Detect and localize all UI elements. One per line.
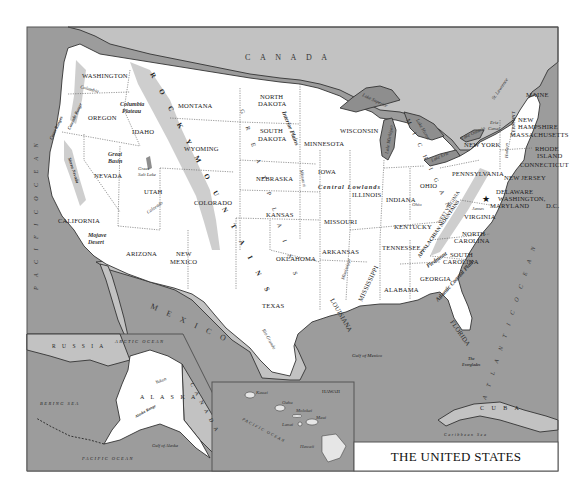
- state-rhode-island-2: ISLAND: [537, 152, 562, 159]
- state-rhode-island-1: RHODE: [535, 145, 559, 152]
- state-tennessee: TENNESSEE: [382, 244, 421, 251]
- state-ohio: OHIO: [420, 182, 437, 189]
- label-mojave-desert-2: Desert: [87, 239, 104, 245]
- label-oahu: Oahu: [282, 400, 293, 405]
- label-maui: Maui: [315, 415, 327, 420]
- state-maine: MAINE: [526, 91, 549, 98]
- label-columbia-plateau-1: Columbia: [120, 101, 144, 107]
- label-everglades-1: The: [468, 356, 475, 361]
- label-ohio-river: Ohio: [412, 202, 422, 207]
- state-north-carolina-2: CAROLINA: [454, 237, 490, 244]
- state-new-york: NEW YORK: [464, 141, 501, 148]
- state-kentucky: KENTUCKY: [394, 223, 432, 230]
- label-central-lowlands: Central Lowlands: [318, 183, 381, 190]
- label-gulf-of-mexico: Gulf of Mexico: [352, 353, 382, 358]
- state-new-jersey: NEW JERSEY: [504, 174, 546, 181]
- title-box: THE UNITED STATES: [354, 442, 558, 471]
- state-new-hampshire-2: HAMPSHIRE: [518, 123, 558, 130]
- label-mojave-desert-1: Mojave: [87, 232, 107, 238]
- state-massachusetts: MASSACHUSETTS: [510, 131, 569, 138]
- label-hawaii-island: Hawaii: [299, 444, 315, 449]
- state-alabama: ALABAMA: [384, 286, 419, 293]
- state-south-dakota-1: SOUTH: [260, 127, 283, 134]
- state-connecticut: CONNECTICUT: [520, 161, 569, 168]
- state-utah: UTAH: [144, 188, 163, 195]
- us-map: THE UNITED STATES C A N A D A M E X I C …: [0, 0, 586, 492]
- state-illinois: ILLINOIS: [352, 191, 382, 198]
- state-arkansas: ARKANSAS: [322, 248, 359, 255]
- state-hawaii: HAWAII: [322, 389, 340, 394]
- state-new-mexico-1: NEW: [176, 250, 192, 257]
- state-california: CALIFORNIA: [58, 217, 100, 224]
- state-delaware: DELAWARE: [496, 188, 533, 195]
- state-pennsylvania: PENNSYLVANIA: [452, 170, 504, 177]
- label-james-river: James: [472, 206, 484, 211]
- label-great-basin-2: Basin: [107, 158, 123, 164]
- label-molokai: Molokai: [295, 408, 313, 413]
- state-maryland: MARYLAND: [490, 202, 529, 209]
- state-georgia: GEORGIA: [420, 275, 451, 282]
- label-erie-canal-1: Erie: [489, 120, 499, 125]
- label-pacific-ocean-alaska: PACIFIC OCEAN: [81, 456, 134, 461]
- state-washington-dc-1: WASHINGTON,: [498, 195, 546, 202]
- label-columbia-plateau-2: Plateau: [122, 108, 142, 114]
- label-bering-sea: BERING SEA: [40, 401, 80, 406]
- state-washington: WASHINGTON: [82, 72, 128, 79]
- state-south-dakota-2: DAKOTA: [258, 135, 287, 142]
- state-iowa: IOWA: [318, 168, 336, 175]
- label-cuba: C U B A: [480, 405, 522, 411]
- label-arctic-ocean: ARCTIC OCEAN: [114, 339, 164, 344]
- label-great-salt-lake-1: Great: [138, 166, 150, 171]
- label-everglades-2: Everglades: [461, 362, 481, 367]
- state-washington-dc-2: D.C.: [546, 202, 559, 209]
- state-minnesota: MINNESOTA: [304, 140, 344, 147]
- molokai-island: [292, 415, 302, 418]
- kauai-island: [245, 392, 255, 398]
- state-north-carolina-1: NORTH: [462, 230, 485, 237]
- state-montana: MONTANA: [178, 102, 213, 109]
- state-new-hampshire-1: NEW: [518, 116, 534, 123]
- oahu-island: [275, 405, 285, 411]
- state-north-dakota-1: NORTH: [260, 93, 283, 100]
- lanai-island: [298, 422, 302, 426]
- label-lanai: Lanai: [281, 422, 294, 427]
- state-idaho: IDAHO: [132, 128, 154, 135]
- state-nevada: NEVADA: [94, 172, 122, 179]
- state-alaska: A L A S K A: [140, 394, 198, 400]
- state-new-mexico-2: MEXICO: [170, 258, 197, 265]
- label-great-basin-1: Great: [108, 151, 122, 157]
- state-virginia: VIRGINIA: [464, 213, 496, 220]
- state-texas: TEXAS: [262, 302, 284, 309]
- label-pacific-ocean: P A C I F I C O C E A N: [33, 139, 39, 291]
- label-great-salt-lake-2: Salt Lake: [138, 172, 157, 177]
- state-wisconsin: WISCONSIN: [340, 127, 378, 134]
- state-south-carolina-1: SOUTH: [450, 251, 473, 258]
- state-north-dakota-2: DAKOTA: [258, 100, 287, 107]
- map-title: THE UNITED STATES: [391, 449, 521, 464]
- label-canada: C A N A D A: [245, 53, 331, 62]
- state-missouri: MISSOURI: [324, 218, 357, 225]
- capital-star-icon: ★: [482, 194, 490, 204]
- state-oregon: OREGON: [88, 114, 117, 121]
- label-kauai: Kauai: [255, 390, 268, 395]
- label-erie-canal-2: Canal: [488, 126, 500, 131]
- state-arizona: ARIZONA: [126, 250, 157, 257]
- state-oklahoma: OKLAHOMA: [276, 255, 316, 262]
- label-gulf-of-alaska: Gulf of Alaska: [152, 443, 179, 448]
- label-caribbean-sea: Caribbean Sea: [444, 432, 487, 437]
- label-russia: R U S S I A: [52, 343, 106, 349]
- label-hudson: Hudson: [504, 142, 509, 159]
